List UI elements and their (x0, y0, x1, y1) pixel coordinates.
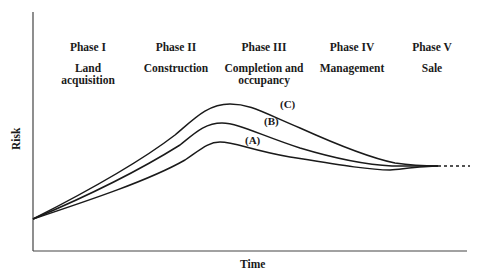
y-axis-label: Risk (10, 128, 22, 150)
curve-c (33, 104, 438, 219)
phase-5-title: Phase V (377, 41, 479, 53)
curve-a (33, 142, 438, 219)
x-axis-label: Time (240, 258, 265, 270)
curve-b-label: (B) (264, 115, 279, 127)
phase-5-desc: Sale (377, 62, 479, 74)
phase-1-desc-line2: acquisition (33, 74, 143, 86)
curve-b (33, 123, 438, 219)
phase-3-desc-line2: occupancy (209, 74, 319, 86)
curve-a-label: (A) (245, 134, 260, 146)
curve-c-label: (C) (280, 98, 295, 110)
